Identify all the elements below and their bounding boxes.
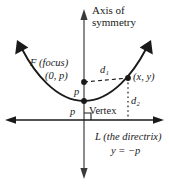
distance-d2-label: d₂	[131, 95, 140, 107]
vertex-label: Vertex	[89, 105, 116, 117]
directrix-arrow-right-icon	[153, 116, 164, 124]
axis-arrow-down-icon	[80, 168, 87, 179]
vertex-point-marker	[81, 98, 87, 104]
axis-of-symmetry-label: Axis of symmetry	[92, 4, 136, 29]
parabola-arrow-left-icon	[15, 40, 28, 55]
focus-coordinate-label: (0, p)	[45, 70, 68, 82]
directrix-arrow-left-icon	[5, 116, 16, 124]
point-xy-marker	[125, 75, 131, 81]
focus-point-marker	[81, 79, 87, 85]
point-xy-label: (x, y)	[133, 71, 155, 83]
focus-label: F (focus)	[30, 57, 68, 69]
parabola-arrow-right-icon	[140, 40, 153, 55]
focal-distance-p-below-label: p	[70, 106, 75, 118]
directrix-equation-label: y = −p	[111, 145, 140, 157]
axis-of-symmetry-line	[80, 9, 87, 179]
directrix-label: L (the directrix)	[95, 131, 162, 143]
distance-d1-label: d₁	[100, 64, 109, 76]
diagram-canvas	[0, 0, 169, 184]
axis-of-symmetry-label-line2: symmetry	[92, 16, 136, 28]
axis-arrow-up-icon	[80, 9, 87, 20]
parabola-diagram: Axis of symmetry F (focus) (0, p) d₁ (x,…	[0, 0, 169, 184]
focal-distance-p-above-label: p	[74, 86, 79, 98]
axis-of-symmetry-label-line1: Axis of	[92, 4, 125, 16]
distance-d1-segment	[84, 78, 128, 82]
